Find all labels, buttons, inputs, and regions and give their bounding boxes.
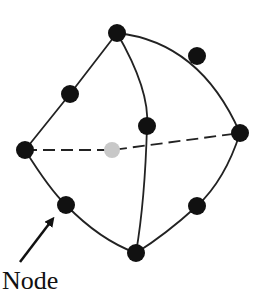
node-left (16, 141, 34, 159)
node-upper-left (61, 85, 79, 103)
node-bottom (127, 244, 145, 262)
node-upper-right (188, 47, 206, 65)
edge-left-bottom (25, 150, 136, 253)
node-lower-left (57, 196, 75, 214)
element-drawing (0, 0, 262, 304)
node-hidden-mid (104, 142, 120, 158)
tetrahedral-element-diagram: Node (0, 0, 262, 304)
edge-top-right (117, 33, 240, 133)
edge-top-bottom (117, 33, 147, 253)
edge-right-bottom (136, 133, 240, 253)
node-lower-right (188, 197, 206, 215)
nodes (16, 24, 249, 262)
edge-hidden-left-right (25, 133, 240, 150)
edges (25, 33, 240, 253)
node-right (231, 124, 249, 142)
node-label: Node (2, 268, 58, 294)
node-center (138, 117, 156, 135)
node-pointer-arrow (20, 220, 52, 262)
node-top (108, 24, 126, 42)
